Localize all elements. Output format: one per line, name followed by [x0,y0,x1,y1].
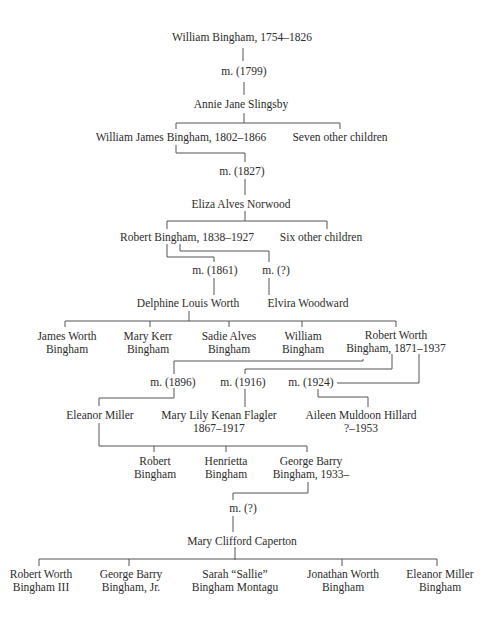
person-node: Eleanor Miller [66,409,133,422]
person-node: Eliza Alves Norwood [191,198,290,211]
person-node: George Barry Bingham, 1933– [273,455,350,481]
person-node: Aileen Muldoon Hillard ?–1953 [305,409,416,435]
person-node: Six other children [280,231,362,244]
person-node: James Worth Bingham [37,330,96,356]
person-node: Jonathan Worth Bingham [307,568,379,594]
marriage-label: m. (1827) [219,165,264,178]
person-node: Henrietta Bingham [205,455,248,481]
marriage-label: m. (1896) [150,376,195,389]
person-node: Annie Jane Slingsby [194,98,289,111]
person-node: Delphine Louis Worth [137,297,239,310]
marriage-label: m. (1924) [288,376,333,389]
connector-lines [0,0,499,625]
person-node: William Bingham, 1754–1826 [172,31,312,44]
person-node: Mary Clifford Caperton [187,535,297,548]
person-node: Robert Worth Bingham III [10,568,72,594]
marriage-label: m. (1799) [221,65,266,78]
person-node: Robert Bingham, 1838–1927 [120,231,254,244]
person-node: Sadie Alves Bingham [202,330,257,356]
marriage-label: m. (1861) [192,264,237,277]
marriage-label: m. (1916) [220,376,265,389]
marriage-label: m. (?) [262,264,289,277]
person-node: William James Bingham, 1802–1866 [96,131,267,144]
person-node: Sarah “Sallie” Bingham Montagu [192,568,279,594]
person-node: George Barry Bingham, Jr. [100,568,163,594]
person-node: Eleanor Miller Bingham [406,568,473,594]
person-node: William Bingham [282,330,324,356]
person-node: Mary Kerr Bingham [124,330,173,356]
person-node: Robert Worth Bingham, 1871–1937 [346,329,446,355]
marriage-label: m. (?) [229,502,256,515]
person-node: Elvira Woodward [268,297,349,310]
person-node: Seven other children [292,131,387,144]
person-node: Robert Bingham [134,455,176,481]
person-node: Mary Lily Kenan Flagler 1867–1917 [161,409,276,435]
